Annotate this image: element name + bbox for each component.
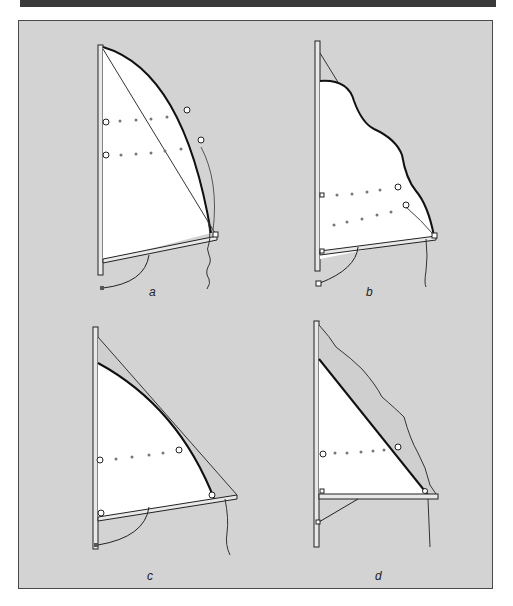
top-bar xyxy=(20,0,496,7)
figure-label-a: a xyxy=(149,285,156,299)
figure-d: d xyxy=(256,307,494,590)
figure-label-d: d xyxy=(375,569,382,583)
sail-diagram-c xyxy=(19,307,256,590)
sail-diagram-d xyxy=(256,307,494,590)
figure-label-c: c xyxy=(147,569,153,583)
sail-diagram-b xyxy=(256,21,494,301)
figure-a: a xyxy=(19,21,256,301)
figure-label-b: b xyxy=(366,285,373,299)
sail-diagram-a xyxy=(19,21,256,301)
diagram-panel: a xyxy=(18,20,493,589)
figure-b: b xyxy=(256,21,494,301)
figure-c: c xyxy=(19,307,256,590)
